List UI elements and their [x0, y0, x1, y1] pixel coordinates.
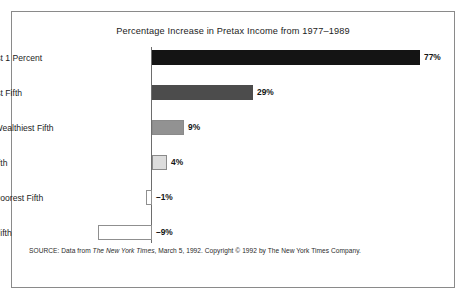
chart-title: Percentage Increase in Pretax Income fro… [12, 26, 454, 36]
source-suffix: , March 5, 1992. Copyright © 1992 by The… [154, 247, 360, 254]
bar-category-label: Second Poorest Fifth [0, 193, 143, 203]
bar-second-wealthiest-fifth [152, 120, 184, 135]
bar-value-label: 4% [171, 157, 183, 167]
bar-value-label: 9% [188, 122, 200, 132]
chart-figure-frame: Percentage Increase in Pretax Income fro… [11, 11, 455, 288]
bar-category-label: Second Wealthiest Fifth [0, 123, 143, 133]
bar-value-label: 29% [257, 87, 274, 97]
bar-row: Second Wealthiest Fifth 9% [12, 115, 456, 150]
bar-row: Middle Fifth 4% [12, 150, 456, 185]
bar-row: Wealthiest Fifth 29% [12, 80, 456, 115]
bar-value-label: 77% [424, 52, 441, 62]
bar-wealthiest-1-percent [152, 50, 420, 65]
bar-row: Second Poorest Fifth –1% [12, 185, 456, 220]
bar-category-label: Middle Fifth [0, 158, 143, 168]
bar-poorest-fifth [98, 225, 152, 240]
bar-category-label: Wealthiest Fifth [0, 88, 143, 98]
chart-plot-area: Wealthiest 1 Percent 77% Wealthiest Fift… [12, 45, 456, 245]
bar-wealthiest-fifth [152, 85, 253, 100]
source-prefix: SOURCE: Data from [29, 247, 93, 254]
bar-category-label: Wealthiest 1 Percent [0, 53, 143, 63]
bar-value-label: –9% [156, 227, 173, 237]
source-publication: The New York Times [93, 247, 155, 254]
bar-second-poorest-fifth [146, 190, 152, 205]
source-note: SOURCE: Data from The New York Times, Ma… [29, 247, 441, 256]
bar-value-label: –1% [156, 192, 173, 202]
bar-middle-fifth [152, 155, 167, 170]
bar-row: Wealthiest 1 Percent 77% [12, 45, 456, 80]
